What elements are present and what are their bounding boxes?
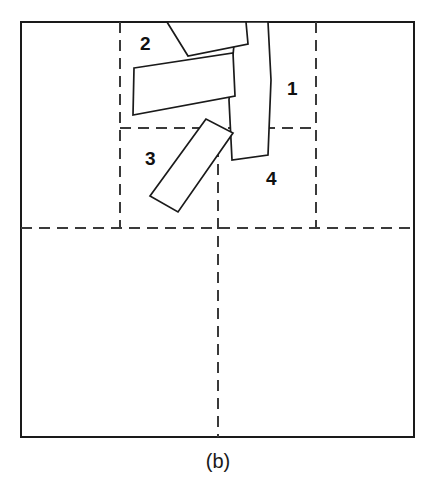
piece-label-4: 4 xyxy=(266,168,277,189)
piece-label-2: 2 xyxy=(140,33,151,54)
piece-label-1: 1 xyxy=(287,78,298,99)
figure-svg: 1 2 3 4 (b) xyxy=(0,0,435,495)
piece-label-3: 3 xyxy=(145,148,156,169)
figure-container: 1 2 3 4 (b) xyxy=(0,0,435,495)
figure-caption: (b) xyxy=(206,450,230,472)
